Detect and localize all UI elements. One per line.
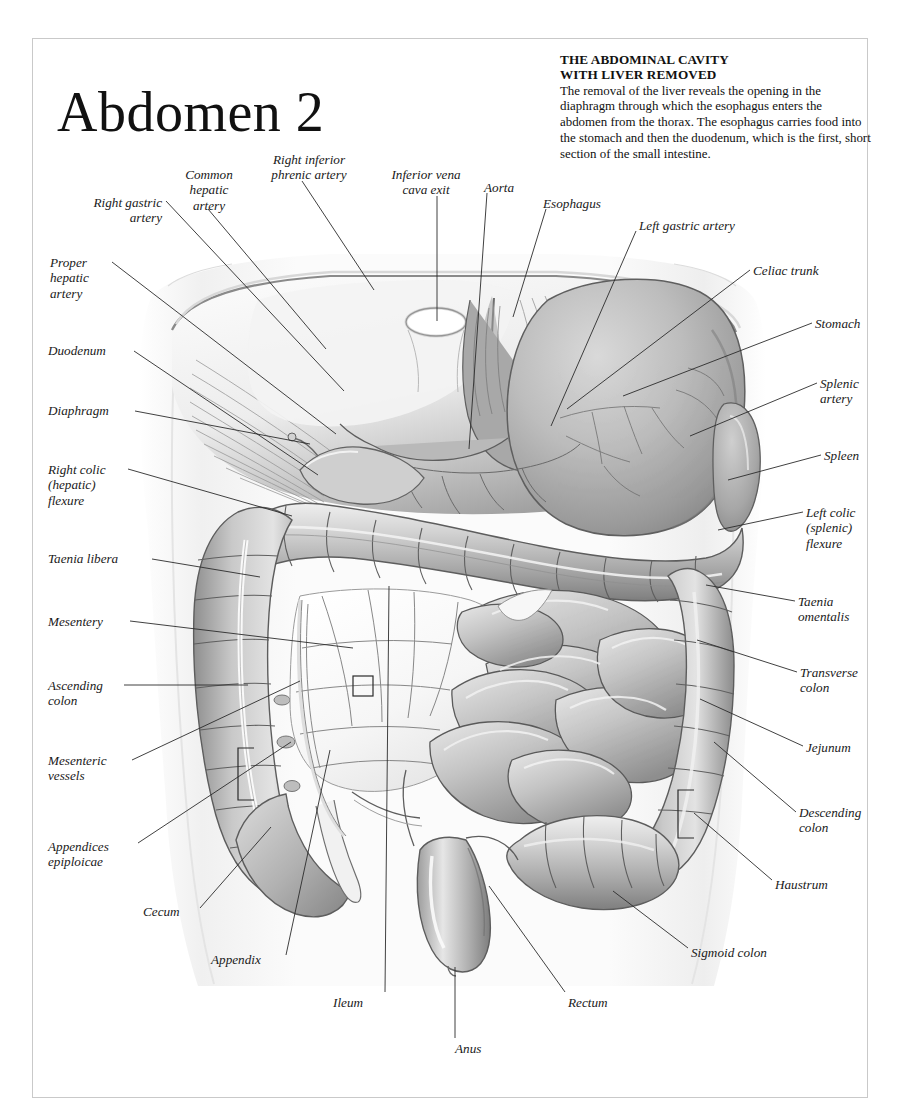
label-appendices-epiploicae: Appendices epiploicae bbox=[48, 839, 136, 870]
label-right-colic-hepatic-flexure: Right colic (hepatic) flexure bbox=[48, 462, 132, 508]
label-esophagus: Esophagus bbox=[543, 196, 623, 211]
label-mesenteric-vessels: Mesenteric vessels bbox=[48, 753, 134, 784]
label-haustrum: Haustrum bbox=[775, 877, 851, 892]
label-appendix: Appendix bbox=[211, 952, 285, 967]
label-descending-colon: Descending colon bbox=[799, 805, 887, 836]
label-mesentery: Mesentery bbox=[48, 614, 128, 629]
label-duodenum: Duodenum bbox=[48, 343, 130, 358]
label-rectum: Rectum bbox=[568, 995, 626, 1010]
label-left-colic-splenic-flexure: Left colic (splenic) flexure bbox=[806, 505, 884, 551]
label-taenia-omentalis: Taenia omentalis bbox=[798, 594, 876, 625]
label-taenia-libera: Taenia libera bbox=[48, 551, 148, 566]
label-transverse-colon: Transverse colon bbox=[800, 665, 886, 696]
label-splenic-artery: Splenic artery bbox=[820, 376, 886, 407]
label-right-gastric-artery: Right gastric artery bbox=[58, 195, 162, 226]
label-celiac-trunk: Celiac trunk bbox=[753, 263, 843, 278]
label-anus: Anus bbox=[455, 1041, 497, 1056]
label-spleen: Spleen bbox=[824, 448, 882, 463]
label-aorta: Aorta bbox=[484, 180, 536, 195]
label-ascending-colon: Ascending colon bbox=[48, 678, 128, 709]
label-proper-hepatic-artery: Proper hepatic artery bbox=[50, 255, 128, 301]
illustration-page: Abdomen 2 THE ABDOMINAL CAVITY WITH LIVE… bbox=[0, 0, 902, 1115]
label-diaphragm: Diaphragm bbox=[48, 403, 131, 418]
label-sigmoid-colon: Sigmoid colon bbox=[691, 945, 797, 960]
label-cecum: Cecum bbox=[143, 904, 199, 919]
label-left-gastric-artery: Left gastric artery bbox=[639, 218, 753, 233]
label-ileum: Ileum bbox=[333, 995, 381, 1010]
label-right-inferior-phrenic-artery: Right inferior phrenic artery bbox=[249, 152, 369, 183]
label-common-hepatic-artery: Common hepatic artery bbox=[166, 167, 252, 213]
label-stomach: Stomach bbox=[815, 316, 885, 331]
label-jejunum: Jejunum bbox=[806, 740, 872, 755]
label-inferior-vena-cava-exit: Inferior vena cava exit bbox=[374, 167, 478, 198]
